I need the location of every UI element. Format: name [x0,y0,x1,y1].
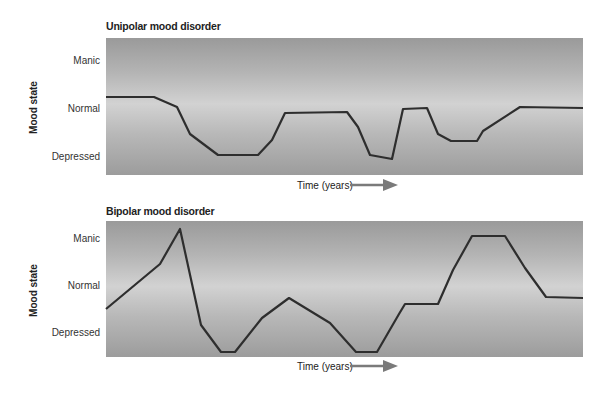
unipolar-mood-line [106,97,583,159]
bipolar-time-arrow-icon [350,360,398,372]
chart-lines [0,0,610,393]
unipolar-time-arrow-icon [350,179,398,191]
bipolar-mood-line [106,229,583,352]
